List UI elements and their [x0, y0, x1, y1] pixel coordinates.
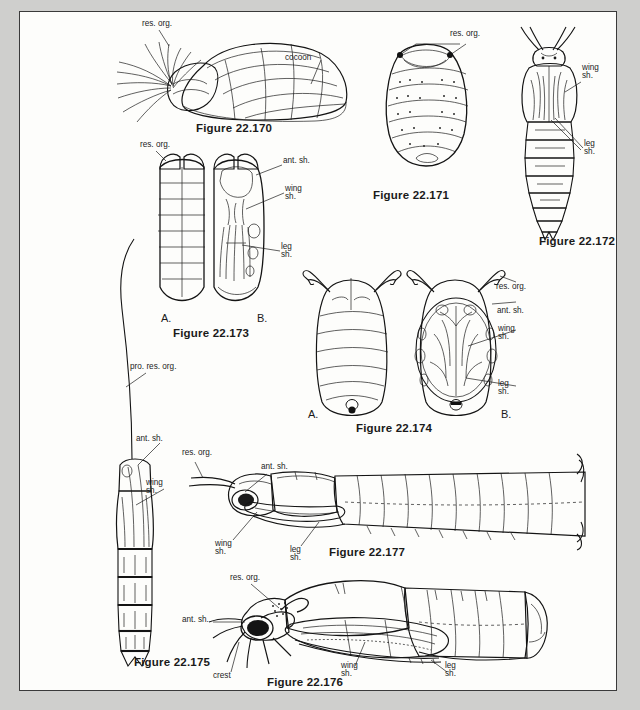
leg-sh-line2: sh. [498, 387, 509, 396]
leader-ant-sh [256, 165, 282, 175]
leader-ant-sh [245, 474, 267, 492]
panel-label-b-22-173: B. [257, 312, 267, 324]
panel-label-a-22-174: A. [308, 408, 318, 420]
label-res-org: res. org. [142, 20, 172, 29]
figure-22-170: res. org. cocoon [115, 22, 360, 137]
pupa-head [168, 63, 218, 111]
panel-a-body-22-174 [316, 278, 388, 416]
leader-leg-sh [242, 245, 280, 251]
caption-22-174: Figure 22.174 [356, 422, 432, 434]
label-leg-sh: leg sh. [290, 546, 301, 562]
label-pro-res-org: pro. res. org. [130, 363, 176, 372]
wing-sh-line2: sh. [146, 486, 157, 495]
label-res-org: res. org. [230, 574, 260, 583]
abdomen-22-175 [118, 549, 152, 666]
leader-wing-sh [246, 193, 284, 209]
label-leg-sh: leg sh. [584, 140, 595, 156]
label-crest: crest [213, 672, 231, 681]
wing-sh-line2: sh. [215, 547, 226, 556]
pro-res-org-filament [121, 239, 134, 459]
label-res-org: res. org. [450, 30, 480, 39]
res-org-b-22-174 [407, 271, 505, 292]
label-wing-sh: wing sh. [498, 325, 515, 341]
leader-ant-sh [138, 443, 160, 465]
figure-22-176: res. org. ant. sh. crest wing sh. leg sh… [195, 570, 555, 680]
illustration-plate: res. org. cocoon Figure 22.170 [19, 11, 617, 691]
stipple-22-171 [396, 79, 457, 147]
head-22-177 [229, 474, 276, 516]
label-res-org: res. org. [182, 449, 212, 458]
wing-sh-line2: sh. [498, 332, 509, 341]
leader-wing-sh [565, 82, 581, 92]
panel-label-b-22-174: B. [501, 408, 511, 420]
leader-ant-sh [492, 302, 516, 304]
leader-res-org [156, 151, 166, 161]
label-wing-sh: wing sh. [582, 64, 599, 80]
leader-leg-sh [301, 522, 319, 546]
figure-22-171: res. org. [370, 30, 490, 175]
wing-sh-line2: sh. [582, 71, 593, 80]
leader-wing-sh [233, 512, 257, 540]
label-leg-sh: leg sh. [281, 243, 292, 259]
figure-22-174: res. org. ant. sh. wing sh. leg sh. [290, 262, 520, 427]
label-ant-sh: ant. sh. [261, 463, 288, 472]
leader-res-org [195, 462, 203, 478]
abdomen-22-176 [405, 588, 548, 660]
head-thorax-22-172 [522, 48, 577, 123]
figure-22-172: wing sh. leg sh. [495, 26, 615, 241]
leg-sh-line2: sh. [281, 250, 292, 259]
res-org-22-177 [191, 477, 235, 484]
label-ant-sh: ant. sh. [283, 157, 310, 166]
label-ant-sh: ant. sh. [182, 616, 209, 625]
label-ant-sh: ant. sh. [497, 307, 524, 316]
label-wing-sh: wing sh. [146, 479, 163, 495]
pupa-body-22-171 [386, 44, 468, 166]
res-org-a-22-174 [303, 271, 401, 292]
caption-22-171: Figure 22.171 [373, 189, 449, 201]
panel-b-body-22-173 [214, 154, 264, 300]
label-leg-sh: leg sh. [445, 662, 456, 678]
caption-22-176: Figure 22.176 [267, 676, 343, 688]
caption-22-177: Figure 22.177 [329, 546, 405, 558]
leg-sh-line2: sh. [584, 147, 595, 156]
leader-crest [231, 642, 239, 672]
leg-sh-line2: sh. [290, 553, 301, 562]
caption-22-172: Figure 22.172 [539, 235, 615, 247]
leg-sh-line2: sh. [445, 669, 456, 678]
wing-sheath-22-176 [285, 618, 448, 658]
thorax-22-175 [117, 459, 154, 549]
wing-sh-line2: sh. [285, 192, 296, 201]
figure-22-177: res. org. ant. sh. wing sh. leg sh. [185, 452, 585, 557]
panel-b-body-22-174 [415, 280, 497, 416]
label-ant-sh: ant. sh. [136, 435, 163, 444]
leader-res-org [159, 30, 169, 46]
abdomen-22-172 [525, 122, 574, 240]
abdomen-22-177 [334, 472, 585, 540]
label-wing-sh: wing sh. [285, 185, 302, 201]
cocoon-body [182, 43, 347, 121]
label-wing-sh: wing sh. [215, 540, 232, 556]
label-res-org: res. org. [140, 141, 170, 150]
label-res-org: res. org. [496, 283, 526, 292]
label-cocoon: cocoon [285, 54, 311, 63]
label-wing-sh: wing sh. [341, 662, 358, 678]
label-leg-sh: leg sh. [498, 380, 509, 396]
caption-22-170: Figure 22.170 [196, 122, 272, 134]
antennae-22-172 [521, 27, 575, 50]
